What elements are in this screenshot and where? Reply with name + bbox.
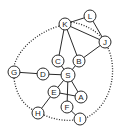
node-B: B — [73, 55, 85, 67]
node-G: G — [8, 66, 20, 78]
node-C: C — [52, 55, 64, 67]
node-label: H — [35, 109, 41, 118]
graph-diagram: KLJCBGDSEAFHI — [0, 0, 127, 133]
node-S: S — [61, 68, 75, 82]
node-label: C — [55, 57, 61, 66]
dotted-edge-G-H — [14, 78, 33, 110]
node-J: J — [99, 36, 111, 48]
node-A: A — [75, 91, 87, 103]
dotted-edge-K-J — [71, 22, 101, 37]
node-label: I — [79, 115, 81, 124]
nodes: KLJCBGDSEAFHI — [8, 10, 111, 125]
node-label: F — [65, 103, 70, 112]
node-L: L — [84, 10, 96, 22]
node-F: F — [61, 101, 73, 113]
node-D: D — [37, 68, 49, 80]
dotted-edge-J-I — [86, 48, 113, 118]
node-H: H — [32, 107, 44, 119]
node-label: K — [62, 20, 68, 29]
node-label: J — [103, 38, 107, 47]
node-label: E — [51, 88, 56, 97]
node-label: G — [11, 68, 17, 77]
dotted-edge-H-I — [44, 115, 74, 120]
node-label: B — [76, 57, 81, 66]
node-label: D — [40, 70, 46, 79]
node-label: L — [88, 12, 93, 21]
node-K: K — [59, 18, 71, 30]
node-E: E — [48, 86, 60, 98]
node-label: S — [65, 71, 70, 80]
node-label: A — [78, 93, 84, 102]
node-I: I — [74, 113, 86, 125]
solid-edges — [14, 16, 105, 119]
